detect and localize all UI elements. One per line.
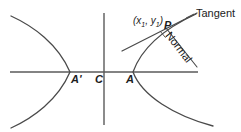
vertex-label-a-prime: A' xyxy=(71,74,82,85)
tangent-label: Tangent xyxy=(196,8,235,19)
point-coordinates-label: (x1, y1) xyxy=(133,16,163,28)
coord-close-paren: ) xyxy=(160,15,163,26)
point-label-p: P xyxy=(164,20,171,31)
diagram-canvas xyxy=(0,0,241,132)
vertex-label-a: A xyxy=(126,74,134,85)
center-label-c: C xyxy=(95,74,103,85)
hyperbola-diagram: A' C A P (x1, y1) Tangent Normal xyxy=(0,0,241,132)
